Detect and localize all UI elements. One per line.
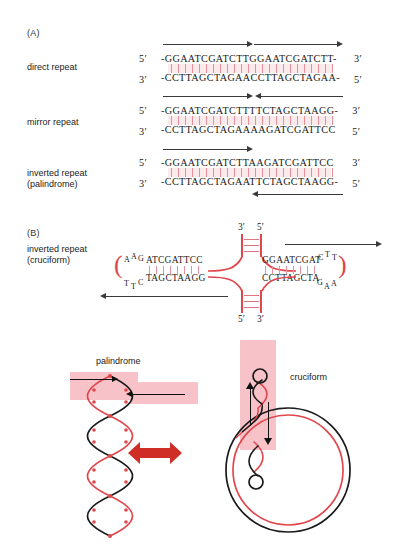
left-loop-bottom-t1: T: [124, 279, 129, 288]
stem-rail-top-left: [241, 234, 243, 257]
sequence-block-direct-repeat: 5′ 3′ -GGAATCGATCTTGGAATCGATCTT- -CCTTAG…: [139, 53, 362, 86]
cruciform-arrow-up-head: [246, 382, 254, 389]
cruciform-diagram: 3′ 5′ ( A A G ATCGATTCC TAGCTAAGG T T C …: [110, 222, 380, 332]
arrow-inverted-bottom-group: [163, 190, 343, 200]
arrow-shaft-6: [257, 194, 343, 195]
three-prime-left-1: 3′: [139, 74, 161, 86]
sequence-block-mirror-repeat: 5′ 3′ -GGAATCGATCTTTTCTAGCTAAGG- -CCTTAG…: [139, 105, 360, 138]
interconversion-arrow: [126, 438, 184, 468]
five-prime-left-2: 5′: [139, 105, 161, 117]
palindrome-arrow-left: [126, 390, 188, 400]
stem-rung-b2: [244, 301, 259, 302]
row-label-mirror-repeat: mirror repeat: [27, 117, 79, 128]
stem-rail-bottom-right: [260, 290, 262, 313]
arrow-shaft-5: [163, 149, 249, 150]
row-label-inverted-repeat: inverted repeat (palindrome): [27, 168, 87, 190]
right-loop-top-t1: T: [325, 250, 330, 259]
base-pair-rungs-1: [161, 64, 340, 73]
panel-a-letter: (A): [27, 28, 40, 38]
cruciform-dna-circle: [196, 370, 376, 545]
three-prime-left-2: 3′: [139, 126, 161, 138]
panel-b-letter: (B): [27, 228, 40, 238]
sequence-block-inverted-repeat: 5′ 3′ -GGAATCGATCTTAAGATCGATTCC -CCTTAGC…: [139, 157, 360, 190]
five-prime-left-1: 5′: [139, 53, 161, 65]
left-arm-top-sequence: ATCGATTCC: [146, 255, 203, 265]
arrow-mirror-repeat-group: [163, 92, 343, 102]
row-label-cruciform: inverted repeat (cruciform): [27, 244, 87, 266]
right-loop-top-c: C: [318, 253, 323, 262]
stem-top-left-prime: 3′: [238, 222, 245, 232]
right-loop-bottom-a2: A: [331, 279, 337, 288]
three-prime-left-3: 3′: [139, 178, 161, 190]
right-loop-bottom-a1: A: [324, 282, 330, 291]
five-prime-left-3: 5′: [139, 157, 161, 169]
left-loop-bottom-t2: T: [131, 282, 136, 291]
stem-rung-t2: [244, 245, 259, 246]
cruciform-arrow-up-shaft: [250, 388, 251, 426]
cruciform-arrow-down-head: [264, 438, 272, 445]
arrow-shaft-4: [260, 96, 343, 97]
arrow-head-right-2: [337, 41, 343, 47]
arrow-head-right-5: [247, 146, 253, 152]
right-loop-bottom-g: G: [317, 278, 323, 287]
stem-rung-t3: [244, 251, 259, 252]
arrow-shaft-2: [254, 44, 340, 45]
stem-top-right-prime: 5′: [257, 222, 264, 232]
stem-rail-top-right: [260, 234, 262, 257]
stem-rung-b1: [244, 295, 259, 296]
three-prime-right-2: 3′: [338, 105, 360, 117]
stem-rung-t1: [244, 239, 259, 240]
arrow-shaft-1: [163, 44, 249, 45]
cruciform-arrow-down-shaft: [268, 402, 269, 440]
junction-curves-bottom: [206, 275, 298, 293]
stem-rail-bottom-left: [241, 290, 243, 313]
stem-rung-b3: [244, 307, 259, 308]
cruciform-arrow-left: [100, 292, 230, 302]
left-arm-bottom-sequence: TAGCTAAGG: [146, 273, 206, 283]
stem-bottom-left-prime: 5′: [238, 314, 245, 324]
three-prime-right-1: 3′: [340, 53, 362, 65]
bottom-strand-1: -CCTTAGCTAGAACCTTAGCTAGAA-: [161, 72, 340, 84]
five-prime-right-3: 5′: [338, 178, 360, 190]
arrow-head-right-1: [247, 41, 253, 47]
arrow-shaft-3: [163, 96, 249, 97]
base-pair-rungs-3: [161, 168, 338, 177]
left-loop-bottom-c: C: [138, 278, 143, 287]
base-pair-rungs-2: [161, 116, 338, 125]
left-loop-top-a1: A: [124, 255, 130, 264]
left-loop-bracket: (: [114, 252, 123, 278]
row-label-direct-repeat: direct repeat: [27, 62, 77, 73]
three-prime-right-3: 3′: [338, 157, 360, 169]
right-loop-bracket: ): [338, 252, 347, 278]
right-arm-top-sequence: GGAATCGAT: [262, 255, 321, 265]
arrow-inverted-top-group: [163, 145, 343, 155]
cruciform-arrow-right: [285, 240, 383, 250]
stem-bottom-right-prime: 3′: [257, 314, 264, 324]
arrow-head-right-3: [247, 93, 253, 99]
bottom-strand-2: -CCTTAGCTAGAAAAGATCGATTCC: [161, 124, 338, 136]
left-loop-top-g: G: [138, 254, 144, 263]
palindrome-caption: palindrome: [96, 356, 141, 366]
palindrome-arrow-right: [70, 375, 122, 385]
arrow-direct-repeat-group: [163, 40, 343, 50]
five-prime-right-1: 5′: [340, 74, 362, 86]
five-prime-right-2: 5′: [338, 126, 360, 138]
right-loop-top-t2: T: [332, 253, 337, 262]
bottom-strand-3: -CCTTAGCTAGAATTCTAGCTAAGG-: [161, 176, 338, 188]
left-loop-top-a2: A: [131, 252, 137, 261]
